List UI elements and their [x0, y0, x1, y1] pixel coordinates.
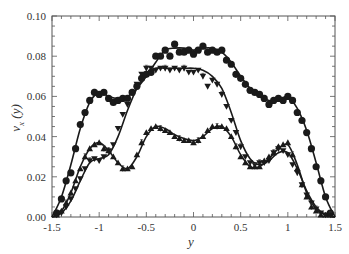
circle-marker — [72, 145, 79, 152]
line-chart: 0.000.020.040.060.080.10 -1.5-1-0.500.51… — [0, 0, 349, 254]
circle-marker — [294, 109, 301, 116]
x-tick-label: -0.5 — [138, 221, 156, 233]
triangle-up-marker — [82, 153, 89, 159]
x-tick-label: -1 — [95, 221, 104, 233]
y-tick-label: 0.08 — [27, 50, 47, 62]
circle-marker — [313, 163, 320, 170]
circle-marker — [171, 41, 178, 48]
x-tick-label: -1.5 — [43, 221, 61, 233]
circle-marker — [63, 177, 70, 184]
circle-marker — [218, 47, 225, 54]
triangle-down-marker — [72, 186, 79, 192]
circle-marker — [322, 193, 329, 200]
plot-frame — [52, 16, 335, 217]
triangle-down-marker — [176, 68, 183, 74]
circle-marker — [199, 43, 206, 50]
triangle-down-marker — [200, 74, 207, 80]
y-tick-label: 0.04 — [27, 131, 47, 143]
data-markers — [53, 41, 334, 219]
circle-marker — [124, 95, 131, 102]
circle-marker — [77, 121, 84, 128]
circle-marker — [162, 47, 169, 54]
circle-marker — [298, 117, 305, 124]
circle-marker — [289, 97, 296, 104]
circle-marker — [303, 129, 310, 136]
x-tick-label: 0 — [191, 221, 197, 233]
series-circles — [53, 41, 334, 217]
x-axis-title: y — [186, 234, 194, 249]
circle-marker — [100, 89, 107, 96]
circle-marker — [81, 109, 88, 116]
y-tick-label: 0.06 — [27, 90, 47, 102]
circle-marker — [308, 145, 315, 152]
triangle-down-marker — [96, 158, 103, 164]
y-axis-tick-labels: 0.000.020.040.060.080.10 — [27, 10, 47, 223]
y-tick-label: 0.10 — [27, 10, 47, 22]
triangle-up-marker — [285, 139, 292, 145]
circle-marker — [157, 53, 164, 60]
triangle-up-marker — [72, 178, 79, 184]
circle-marker — [166, 53, 173, 60]
circle-marker — [261, 95, 268, 102]
x-tick-label: 1.5 — [328, 221, 342, 233]
triangle-down-marker — [110, 142, 117, 148]
series-up-triangles — [53, 123, 333, 218]
svg-text:vx (y): vx (y) — [8, 104, 26, 131]
y-axis-title: vx (y) — [8, 104, 26, 131]
axis-ticks — [52, 16, 335, 217]
x-tick-label: 1 — [285, 221, 291, 233]
circle-marker — [67, 169, 74, 176]
circle-marker — [317, 177, 324, 184]
y-tick-label: 0.02 — [27, 171, 46, 183]
triangle-down-marker — [190, 70, 197, 76]
x-tick-label: 0.5 — [234, 221, 248, 233]
triangle-down-marker — [204, 84, 211, 90]
triangle-down-marker — [77, 176, 84, 182]
triangle-up-marker — [68, 190, 75, 196]
triangle-up-marker — [294, 165, 301, 171]
circle-marker — [242, 81, 249, 88]
circle-marker — [86, 97, 93, 104]
circle-marker — [237, 75, 244, 82]
circle-marker — [228, 61, 235, 68]
x-axis-tick-labels: -1.5-1-0.500.511.5 — [43, 221, 342, 233]
triangle-down-marker — [167, 68, 174, 74]
circle-marker — [58, 195, 65, 202]
